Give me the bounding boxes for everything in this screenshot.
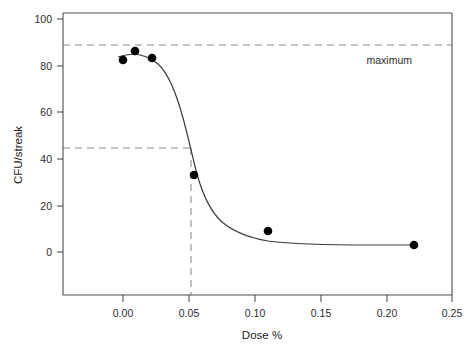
maximum-annotation-label: maximum [366, 54, 412, 66]
plot-background [0, 0, 475, 350]
x-tick-label-025: 0.25 [442, 307, 463, 319]
y-axis-title: CFU/streak [12, 126, 24, 184]
data-point [131, 47, 140, 56]
y-tick-label-40: 40 [40, 153, 52, 165]
data-point [148, 54, 157, 63]
data-point [190, 171, 199, 180]
x-tick-label-000: 0.00 [113, 307, 134, 319]
x-tick-label-020: 0.20 [377, 307, 398, 319]
data-point [264, 227, 273, 236]
chart-figure: 100 80 60 40 20 0 0.00 0.05 0.10 0.15 0.… [0, 0, 475, 350]
data-point [410, 241, 419, 250]
y-tick-label-0: 0 [46, 246, 52, 258]
data-point [119, 56, 128, 65]
x-axis-title: Dose % [242, 329, 282, 341]
x-tick-label-005: 0.05 [179, 307, 200, 319]
x-tick-label-015: 0.15 [311, 307, 332, 319]
y-tick-label-100: 100 [34, 13, 52, 25]
y-tick-label-20: 20 [40, 200, 52, 212]
y-tick-label-60: 60 [40, 106, 52, 118]
x-tick-label-010: 0.10 [245, 307, 266, 319]
y-tick-label-80: 80 [40, 60, 52, 72]
dose-response-plot: 100 80 60 40 20 0 0.00 0.05 0.10 0.15 0.… [0, 0, 475, 350]
